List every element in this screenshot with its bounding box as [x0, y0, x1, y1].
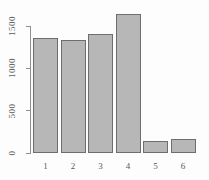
- y-axis-tick: [26, 110, 30, 111]
- x-axis-label: 3: [91, 162, 111, 171]
- bar-chart-figure: 050010001500123456: [0, 0, 209, 180]
- bar-2: [61, 40, 86, 153]
- x-axis-label: 5: [146, 162, 166, 171]
- bar-1: [33, 38, 58, 154]
- y-axis-line: [30, 26, 31, 154]
- y-axis-tick: [26, 26, 30, 27]
- x-axis-label: 6: [173, 162, 193, 171]
- x-axis-label: 2: [63, 162, 83, 171]
- y-axis-tick: [26, 153, 30, 154]
- y-axis-tick-label: 0: [8, 151, 17, 156]
- bar-4: [116, 14, 141, 153]
- y-axis-tick-label: 500: [8, 103, 17, 118]
- y-axis-tick-label: 1000: [8, 58, 17, 78]
- y-axis-tick: [26, 68, 30, 69]
- bar-6: [171, 139, 196, 153]
- x-axis-label: 1: [36, 162, 56, 171]
- bar-3: [88, 34, 113, 154]
- y-axis-tick-label: 1500: [8, 16, 17, 36]
- x-axis-label: 4: [118, 162, 138, 171]
- bar-5: [143, 141, 168, 154]
